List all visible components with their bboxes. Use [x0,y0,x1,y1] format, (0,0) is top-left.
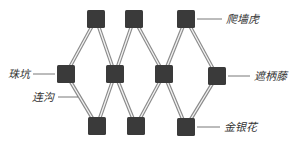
planting-diagram: 爬墙虎 遮柄藤 金银花 珠坑 连沟 [0,0,297,151]
plant-labels: 爬墙虎 遮柄藤 金银花 珠坑 连沟 [8,13,289,134]
planting-node-b3 [177,118,195,136]
label-honeysuckle: 金银花 [224,121,259,134]
planting-nodes [57,10,226,136]
label-connecting-ditch: 连沟 [32,91,55,104]
planting-node-t1 [87,10,105,28]
label-planting-pit: 珠坑 [8,68,32,81]
planting-node-t3 [177,10,195,28]
planting-node-t2 [125,10,143,28]
planting-node-m4 [208,67,226,85]
label-boston-ivy: 爬墙虎 [226,13,261,26]
label-covering-vine: 遮柄藤 [254,70,289,83]
planting-node-b2 [127,117,145,135]
planting-node-m3 [155,65,173,83]
planting-node-m1 [57,65,75,83]
planting-node-b1 [88,117,106,135]
planting-node-m2 [106,65,124,83]
